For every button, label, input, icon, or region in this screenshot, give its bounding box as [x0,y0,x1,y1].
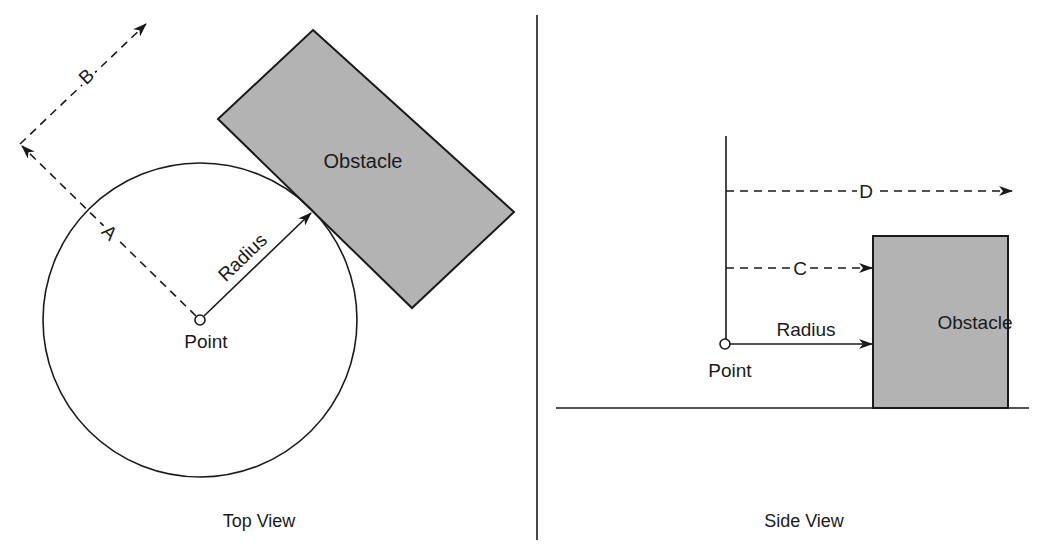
diagram-canvas: Obstacle Radius A B Point Top View Obsta… [0,0,1040,552]
side-point-marker [720,339,730,349]
side-view-caption: Side View [764,511,845,531]
side-point-label: Point [708,360,752,381]
top-point-marker [195,315,205,325]
side-radius-label: Radius [776,319,835,340]
ray-c-label: C [793,258,807,279]
top-obstacle-label: Obstacle [324,150,403,172]
ray-b-label: B [74,64,98,88]
top-radius-label: Radius [214,229,271,285]
side-obstacle-label: Obstacle [938,312,1013,333]
ray-d-label: D [859,181,873,202]
top-point-label: Point [184,331,228,352]
top-view-panel: Obstacle Radius A B Point Top View [20,24,514,531]
top-view-caption: Top View [223,511,297,531]
side-view-panel: Obstacle D C Radius Point Side View [556,136,1029,531]
